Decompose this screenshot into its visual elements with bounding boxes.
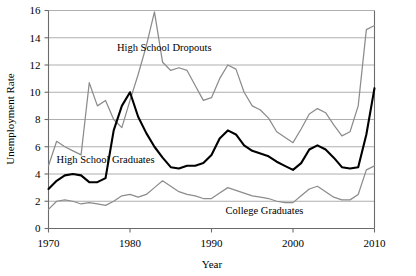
y-axis-tick-labels: 0246810121416 xyxy=(30,4,42,234)
y-axis-title: Unemployment Rate xyxy=(4,73,16,164)
y-tick-label-14: 14 xyxy=(30,32,42,44)
series-line-college-graduates xyxy=(49,166,375,210)
x-tick-label-1970: 1970 xyxy=(38,237,61,249)
y-tick-label-6: 6 xyxy=(35,141,41,153)
y-tick-label-10: 10 xyxy=(30,86,42,98)
x-axis-title: Year xyxy=(202,258,223,270)
y-tick-label-8: 8 xyxy=(35,113,41,125)
x-axis-tick-labels: 19701980199020002010 xyxy=(38,237,387,249)
x-axis-ticks xyxy=(49,229,375,233)
annotation-high-school-dropouts: High School Dropouts xyxy=(117,42,212,53)
x-tick-label-2010: 2010 xyxy=(364,237,387,249)
y-tick-label-12: 12 xyxy=(30,59,41,71)
y-tick-label-0: 0 xyxy=(35,222,41,234)
unemployment-rate-line-chart: 0246810121416 19701980199020002010 High … xyxy=(0,0,416,276)
x-tick-label-1990: 1990 xyxy=(201,237,224,249)
series-line-high-school-dropouts xyxy=(49,12,375,166)
y-tick-label-4: 4 xyxy=(35,168,41,180)
x-tick-label-1980: 1980 xyxy=(119,237,142,249)
y-tick-label-16: 16 xyxy=(30,4,42,16)
annotation-high-school-graduates: High School Graduates xyxy=(57,154,155,165)
chart-canvas: 0246810121416 19701980199020002010 High … xyxy=(0,0,416,276)
series-lines-group xyxy=(49,12,375,210)
annotation-college-graduates: College Graduates xyxy=(226,205,304,216)
y-tick-label-2: 2 xyxy=(35,195,41,207)
y-axis-ticks xyxy=(45,11,49,229)
x-tick-label-2000: 2000 xyxy=(282,237,305,249)
